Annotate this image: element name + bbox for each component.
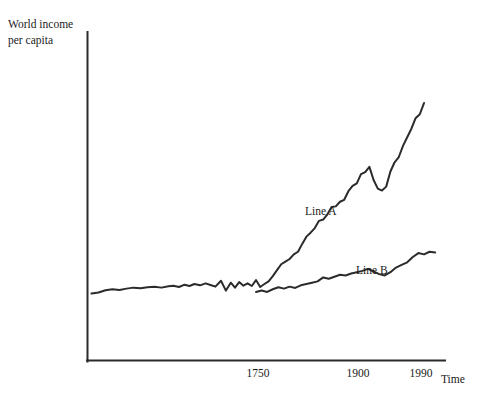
x-tick-label-1750: 1750 [247, 367, 270, 379]
series-label-line-b: Line B [356, 264, 388, 276]
series-label-line-a: Line A [305, 205, 337, 217]
y-axis-title-line1: World income [8, 18, 73, 30]
x-tick-label-1900: 1900 [347, 367, 370, 379]
line-chart-figure: World income per capita Time 1750 1900 1… [0, 0, 478, 406]
y-axis-title-line2: per capita [8, 34, 53, 47]
x-tick-label-1990: 1990 [410, 367, 433, 379]
series-line-b [256, 252, 435, 292]
chart-container: World income per capita Time 1750 1900 1… [0, 0, 478, 406]
x-axis-title: Time [441, 373, 465, 385]
